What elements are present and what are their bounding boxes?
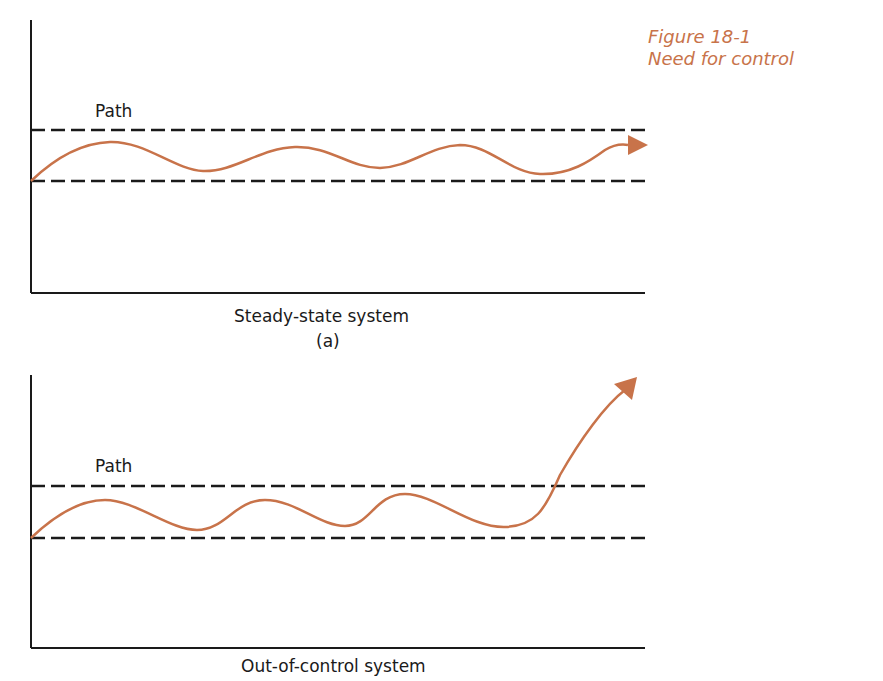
panel-a-system-path [31, 142, 628, 181]
panel-a-caption: Steady-state system [234, 306, 409, 326]
panel-b-caption: Out-of-control system [241, 656, 426, 676]
panel-a-sublabel: (a) [316, 331, 340, 351]
panel-a-chart [31, 20, 648, 293]
panel-a-path-label: Path [95, 101, 132, 121]
panel-b-chart [31, 375, 645, 648]
diagram-canvas [0, 0, 883, 681]
panel-b-path-label: Path [95, 456, 132, 476]
panel-a-arrowhead [628, 135, 648, 155]
